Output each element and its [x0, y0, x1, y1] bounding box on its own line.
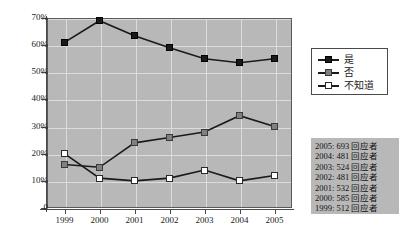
legend-marker-icon: [318, 81, 339, 90]
x-axis-label: 2004: [220, 216, 260, 225]
respondents-note-line: 2004: 481 回应者: [315, 151, 399, 161]
data-point-marker: [96, 164, 103, 171]
data-point-marker: [96, 17, 103, 24]
x-axis-tick: [170, 210, 171, 214]
x-axis-label: 2003: [185, 216, 225, 225]
legend-item: 是: [318, 53, 387, 66]
respondents-note-box: 2005: 693 回应者2004: 481 回应者2003: 524 回应者2…: [311, 138, 399, 214]
y-axis-label: 30%: [32, 122, 49, 131]
y-axis-label: 70%: [32, 13, 49, 22]
data-point-marker: [131, 32, 138, 39]
x-axis-tick: [65, 210, 66, 214]
respondents-note-line: 2003: 524 回应者: [315, 162, 399, 172]
gridline-horizontal: [48, 182, 291, 183]
gridline-horizontal: [48, 19, 291, 20]
data-point-marker: [236, 112, 243, 119]
data-point-marker: [201, 55, 208, 62]
gridline-horizontal: [48, 128, 291, 129]
gridline-vertical: [66, 19, 67, 207]
respondents-note-line: 2000: 585 回应者: [315, 193, 399, 203]
gridline-horizontal: [48, 73, 291, 74]
y-axis-label: 60%: [32, 40, 49, 49]
data-point-marker: [96, 175, 103, 182]
data-point-marker: [236, 59, 243, 66]
data-point-marker: [61, 161, 68, 168]
y-axis-label: 10%: [32, 176, 49, 185]
data-point-marker: [131, 177, 138, 184]
gridline-vertical: [206, 19, 207, 207]
data-point-marker: [271, 55, 278, 62]
respondents-note-line: 2002: 481 回应者: [315, 172, 399, 182]
legend-marker-icon: [318, 68, 339, 77]
gridline-horizontal: [48, 155, 291, 156]
data-point-marker: [61, 150, 68, 157]
legend-label: 否: [344, 68, 354, 78]
data-point-marker: [166, 175, 173, 182]
legend-item: 不知道: [318, 79, 387, 92]
x-axis-label: 2002: [150, 216, 190, 225]
x-axis-line: [40, 209, 294, 210]
x-axis-label: 2005: [255, 216, 295, 225]
x-axis-label: 1999: [45, 216, 85, 225]
x-axis-tick: [205, 210, 206, 214]
data-point-marker: [166, 134, 173, 141]
data-point-marker: [236, 177, 243, 184]
x-axis-label: 2000: [80, 216, 120, 225]
legend-item: 否: [318, 66, 387, 79]
respondents-note-line: 2001: 532 回应者: [315, 183, 399, 193]
y-axis-label: 40%: [32, 94, 49, 103]
x-axis-tick: [100, 210, 101, 214]
data-point-marker: [166, 44, 173, 51]
chart-legend: 是否不知道: [311, 48, 388, 95]
x-axis-label: 2001: [115, 216, 155, 225]
data-point-marker: [131, 139, 138, 146]
y-axis-label: 20%: [32, 149, 49, 158]
respondents-note-line: 1999: 512 回应者: [315, 203, 399, 213]
legend-marker-icon: [318, 55, 339, 64]
y-axis-label: 0: [44, 203, 49, 212]
x-axis-tick: [135, 210, 136, 214]
gridline-horizontal: [48, 100, 291, 101]
data-point-marker: [201, 129, 208, 136]
x-axis-tick: [275, 210, 276, 214]
line-chart: 010%20%30%40%50%60%70%199920002001200220…: [0, 0, 405, 249]
data-point-marker: [271, 172, 278, 179]
y-axis-label: 50%: [32, 67, 49, 76]
legend-label: 是: [344, 55, 354, 65]
data-point-marker: [61, 39, 68, 46]
respondents-note-line: 2005: 693 回应者: [315, 141, 399, 151]
data-point-marker: [271, 123, 278, 130]
data-point-marker: [201, 167, 208, 174]
legend-label: 不知道: [344, 81, 374, 91]
x-axis-tick: [240, 210, 241, 214]
